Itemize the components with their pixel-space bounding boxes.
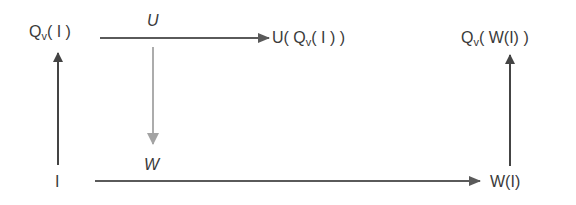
node-q-v-w-i-rest: ( W(I) ) xyxy=(479,29,529,46)
node-u-q-v-i-rest: ( I ) ) xyxy=(311,29,345,46)
node-q-v-i: Qv( I ) xyxy=(29,24,71,42)
node-u-q-v-i-prefix: U( xyxy=(272,29,293,46)
node-i-text: I xyxy=(55,173,59,190)
node-u-q-v-i: U( Qv( I ) ) xyxy=(272,30,345,48)
node-q-v-w-i-main: Q xyxy=(461,29,473,46)
node-q-v-i-rest: ( I ) xyxy=(47,23,71,40)
edge-label-w: W xyxy=(144,157,159,173)
node-w-i: W(I) xyxy=(490,174,520,190)
node-w-i-text: W(I) xyxy=(490,173,520,190)
node-q-v-i-main: Q xyxy=(29,23,41,40)
node-q-v-w-i: Qv( W(I) ) xyxy=(461,30,529,48)
node-u-q-v-i-main: Q xyxy=(293,29,305,46)
edge-label-u: U xyxy=(147,13,159,29)
node-i: I xyxy=(55,174,59,190)
